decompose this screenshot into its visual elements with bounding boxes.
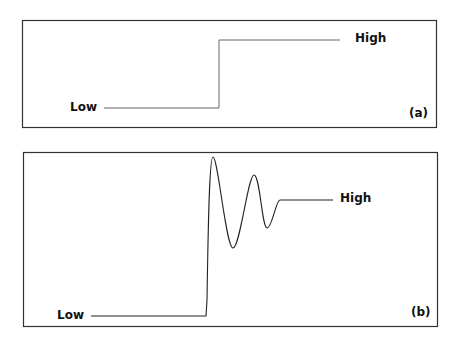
ringing-step-waveform [91,157,333,316]
panel-b-high-label: High [340,191,371,205]
ideal-step-waveform [104,40,340,108]
diagram-canvas [0,0,459,344]
panel-b-border [24,153,438,327]
panel-b-caption: (b) [411,305,431,319]
panel-a-high-label: High [355,31,386,45]
panel-a-caption: (a) [409,106,428,120]
panel-b [24,153,438,327]
panel-a-low-label: Low [70,100,97,114]
panel-b-low-label: Low [57,308,84,322]
